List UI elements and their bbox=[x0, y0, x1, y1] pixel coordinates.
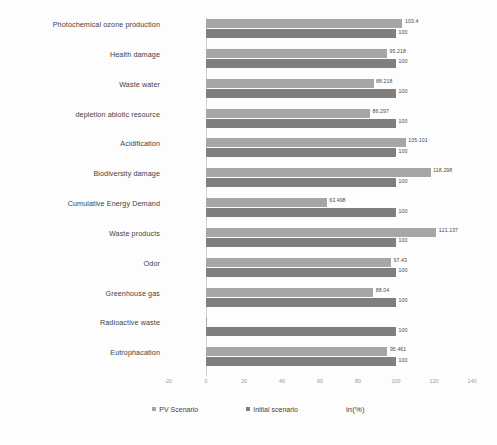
category-label: Greenhouse gas bbox=[0, 289, 160, 298]
category-label: Waste water bbox=[0, 80, 160, 89]
bar-value-label: 100 bbox=[399, 267, 408, 273]
bar-pv[interactable] bbox=[206, 198, 327, 207]
bar-init[interactable] bbox=[206, 268, 396, 277]
chart-category-row: Biodiversity damage118.298100 bbox=[168, 167, 472, 197]
bar-value-label: 105.101 bbox=[408, 137, 427, 143]
legend-swatch-icon-pv bbox=[152, 407, 156, 411]
bar-value-label: 103.4 bbox=[405, 18, 418, 24]
bar-init[interactable] bbox=[206, 29, 396, 38]
axis-unit-note: in(%) bbox=[346, 405, 365, 414]
bar-pv[interactable] bbox=[206, 49, 387, 58]
chart-category-row: Greenhouse gas88.04100 bbox=[168, 287, 472, 317]
bar-pv[interactable] bbox=[206, 79, 374, 88]
x-tick-label: 100 bbox=[392, 378, 401, 384]
bar-init[interactable] bbox=[206, 298, 396, 307]
category-label: Cumulative Energy Demand bbox=[0, 199, 160, 208]
bar-pv[interactable] bbox=[206, 228, 436, 237]
bar-pv[interactable] bbox=[206, 109, 370, 118]
bar-init[interactable] bbox=[206, 119, 396, 128]
bar-value-label: 86.297 bbox=[372, 108, 388, 114]
bar-value-label: 63.498 bbox=[329, 197, 345, 203]
bar-pv[interactable] bbox=[206, 347, 387, 356]
bar-pv[interactable] bbox=[206, 317, 207, 326]
bar-value-label: 100 bbox=[399, 208, 408, 214]
category-label: Waste products bbox=[0, 229, 160, 238]
category-label: Odor bbox=[0, 259, 160, 268]
chart-category-row: Acidification105.101100 bbox=[168, 137, 472, 167]
bar-value-label: 100 bbox=[399, 327, 408, 333]
bar-pv[interactable] bbox=[206, 138, 406, 147]
legend-item-initial-scenario[interactable]: Initial scenario bbox=[246, 406, 298, 413]
bar-value-label: 100 bbox=[399, 88, 408, 94]
chart-category-row: Radioactive waste100 bbox=[168, 316, 472, 346]
chart-category-row: Odor97.43100 bbox=[168, 257, 472, 287]
category-label: depletion abiotic resource bbox=[0, 110, 160, 119]
x-tick-label: -20 bbox=[164, 378, 172, 384]
bar-value-label: 118.298 bbox=[433, 167, 452, 173]
x-tick-label: 0 bbox=[205, 378, 208, 384]
bar-init[interactable] bbox=[206, 357, 396, 366]
bar-pv[interactable] bbox=[206, 288, 373, 297]
category-label: Health damage bbox=[0, 50, 160, 59]
bar-init[interactable] bbox=[206, 89, 396, 98]
bar-pv[interactable] bbox=[206, 168, 431, 177]
chart-category-row: Cumulative Energy Demand63.498100 bbox=[168, 197, 472, 227]
bar-value-label: 121.137 bbox=[439, 227, 458, 233]
legend-label-initial: Initial scenario bbox=[253, 406, 298, 413]
chart-category-row: depletion abiotic resource86.297100 bbox=[168, 108, 472, 138]
category-label: Radioactive waste bbox=[0, 318, 160, 327]
bar-init[interactable] bbox=[206, 148, 396, 157]
chart-category-row: Health damage95.218100 bbox=[168, 48, 472, 78]
x-tick-label: 120 bbox=[430, 378, 439, 384]
x-tick-label: 40 bbox=[279, 378, 285, 384]
x-tick-label: 140 bbox=[468, 378, 477, 384]
x-axis-ticks: -20020406080100120140 bbox=[168, 376, 472, 392]
chart-category-row: Waste water88.218100 bbox=[168, 78, 472, 108]
legend-swatch-icon-initial bbox=[246, 407, 250, 411]
bar-value-label: 100 bbox=[399, 357, 408, 363]
category-label: Eutrophacation bbox=[0, 348, 160, 357]
bar-init[interactable] bbox=[206, 208, 396, 217]
plot-area: Photochemical ozone production103.4100He… bbox=[168, 18, 472, 376]
legend-item-pv-scenario[interactable]: PV Scenario bbox=[152, 406, 198, 413]
bar-value-label: 88.04 bbox=[376, 287, 389, 293]
bar-value-label: 88.218 bbox=[376, 78, 392, 84]
x-tick-label: 80 bbox=[355, 378, 361, 384]
category-label: Biodiversity damage bbox=[0, 169, 160, 178]
x-tick-label: 20 bbox=[241, 378, 247, 384]
chart-category-row: Waste products121.137100 bbox=[168, 227, 472, 257]
chart-legend: PV Scenario Initial scenario in(%) bbox=[0, 400, 497, 418]
bar-value-label: 100 bbox=[399, 118, 408, 124]
bar-value-label: 100 bbox=[399, 178, 408, 184]
bar-value-label: 100 bbox=[399, 148, 408, 154]
bar-value-label: 97.43 bbox=[394, 257, 407, 263]
bar-pv[interactable] bbox=[206, 258, 391, 267]
bar-value-label: 95.218 bbox=[389, 48, 405, 54]
chart-category-row: Eutrophacation95.461100 bbox=[168, 346, 472, 376]
bar-init[interactable] bbox=[206, 59, 396, 68]
category-label: Acidification bbox=[0, 139, 160, 148]
category-label: Photochemical ozone production bbox=[0, 20, 160, 29]
chart-category-row: Photochemical ozone production103.4100 bbox=[168, 18, 472, 48]
bar-value-label: 100 bbox=[399, 237, 408, 243]
chart-container: Photochemical ozone production103.4100He… bbox=[0, 0, 497, 445]
bar-pv[interactable] bbox=[206, 19, 402, 28]
legend-label-pv: PV Scenario bbox=[159, 406, 198, 413]
bar-init[interactable] bbox=[206, 238, 396, 247]
bar-value-label: 95.461 bbox=[390, 346, 406, 352]
x-tick-label: 60 bbox=[317, 378, 323, 384]
bar-init[interactable] bbox=[206, 178, 396, 187]
bar-value-label: 100 bbox=[399, 58, 408, 64]
bar-value-label: 100 bbox=[399, 29, 408, 35]
bar-init[interactable] bbox=[206, 327, 396, 336]
bar-value-label: 100 bbox=[399, 297, 408, 303]
